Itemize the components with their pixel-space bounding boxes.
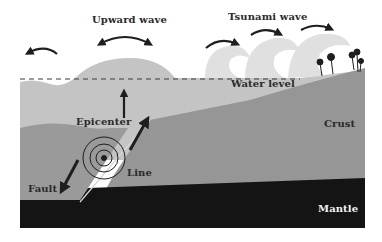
curved-arrow-icon (28, 49, 57, 54)
label-crust: Crust (324, 118, 355, 129)
label-water-level: Water level (231, 78, 295, 89)
label-line: Line (127, 167, 152, 178)
curved-arrow-icon (100, 37, 150, 44)
label-mantle: Mantle (318, 203, 358, 214)
curved-arrow-icon (301, 26, 331, 30)
label-fault: Fault (28, 183, 57, 194)
curved-arrow-icon (251, 30, 280, 35)
label-tsunami-wave: Tsunami wave (228, 11, 308, 22)
label-upward-wave: Upward wave (92, 14, 167, 25)
label-epicenter: Epicenter (76, 116, 131, 127)
